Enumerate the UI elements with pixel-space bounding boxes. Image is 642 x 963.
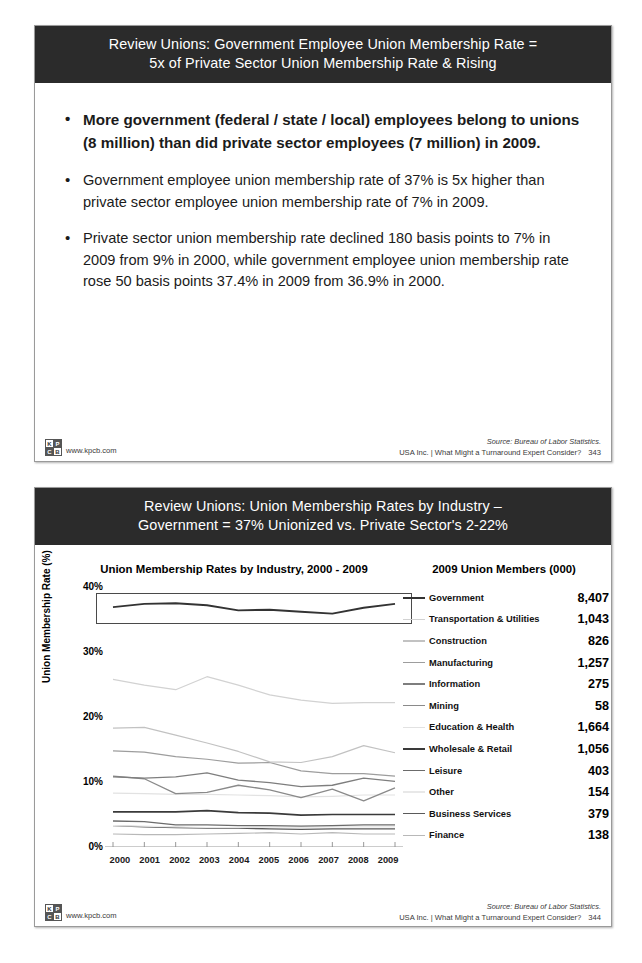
series-line: [113, 821, 395, 826]
kpcb-letter-p: P: [54, 905, 61, 912]
legend-label: Other: [429, 787, 557, 797]
legend-row: Leisure403: [403, 760, 609, 782]
deck-title: USA Inc. | What Might a Turnaround Exper…: [399, 448, 581, 457]
legend-label: Finance: [429, 830, 557, 840]
slide-2-title-line-2: Government = 37% Unionized vs. Private S…: [59, 516, 587, 535]
kpcb-logo-icon: K P C B: [45, 904, 62, 921]
deck-note: USA Inc. | What Might a Turnaround Exper…: [399, 448, 601, 457]
page-number: 344: [588, 913, 601, 922]
legend-label: Business Services: [429, 809, 557, 819]
legend-value: 1,043: [557, 612, 609, 626]
kpcb-letter-p: P: [54, 440, 61, 447]
kpcb-logo: K P C B www.kpcb.com: [45, 439, 117, 456]
slide-2-footer: K P C B www.kpcb.com Source: Bureau of L…: [35, 892, 611, 926]
series-line: [113, 833, 395, 835]
plot-region: [105, 587, 403, 847]
members-column-title: 2009 Union Members (000): [405, 563, 611, 575]
bullet-item: More government (federal / state / local…: [61, 109, 585, 154]
legend-row: Wholesale & Retail1,056: [403, 738, 609, 760]
kpcb-url[interactable]: www.kpcb.com: [66, 911, 117, 921]
legend-swatch-icon: [403, 662, 425, 663]
slide-1-header: Review Unions: Government Employee Union…: [35, 26, 611, 83]
legend-row: Finance138: [403, 825, 609, 847]
x-axis-tick: 2008: [343, 855, 373, 865]
legend-row: Construction826: [403, 630, 609, 652]
legend-swatch-icon: [403, 813, 425, 814]
legend-row: Mining58: [403, 695, 609, 717]
kpcb-letter-k: K: [46, 905, 53, 912]
slide-1-title-line-2: 5x of Private Sector Union Membership Ra…: [59, 54, 587, 73]
x-axis-tick: 2006: [284, 855, 314, 865]
legend-swatch-icon: [403, 835, 425, 836]
legend-value: 138: [557, 828, 609, 842]
deck-note: USA Inc. | What Might a Turnaround Exper…: [399, 913, 601, 922]
legend-value: 1,664: [557, 720, 609, 734]
x-axis-tick: 2007: [314, 855, 344, 865]
legend-value: 1,056: [557, 742, 609, 756]
series-line: [113, 811, 395, 816]
legend-label: Leisure: [429, 766, 557, 776]
legend-row: Business Services379: [403, 803, 609, 825]
kpcb-url[interactable]: www.kpcb.com: [66, 446, 117, 456]
legend-row: Education & Health1,664: [403, 717, 609, 739]
kpcb-letter-b: B: [54, 913, 61, 920]
slide-1: Review Unions: Government Employee Union…: [34, 25, 612, 462]
legend-swatch-icon: [403, 770, 425, 771]
x-axis-tick: 2009: [373, 855, 403, 865]
slide-2: Review Unions: Union Membership Rates by…: [34, 487, 612, 927]
chart-legend: Government8,407Transportation & Utilitie…: [403, 587, 609, 846]
legend-swatch-icon: [403, 748, 425, 750]
kpcb-letter-c: C: [46, 448, 53, 455]
deck-title: USA Inc. | What Might a Turnaround Exper…: [399, 913, 581, 922]
kpcb-logo: K P C B www.kpcb.com: [45, 904, 117, 921]
bullet-item: Government employee union membership rat…: [61, 170, 585, 213]
x-axis-line: [105, 842, 403, 847]
chart-area: Union Membership Rate (%) 0%10%20%30%40%…: [35, 587, 611, 887]
legend-label: Information: [429, 679, 557, 689]
legend-row: Manufacturing1,257: [403, 652, 609, 674]
series-line: [113, 603, 395, 613]
legend-row: Transportation & Utilities1,043: [403, 609, 609, 631]
legend-label: Education & Health: [429, 722, 557, 732]
slide-2-body: Union Membership Rates by Industry, 2000…: [35, 545, 611, 923]
legend-swatch-icon: [403, 727, 425, 728]
legend-swatch-icon: [403, 705, 425, 706]
x-axis-tick: 2004: [224, 855, 254, 865]
legend-swatch-icon: [403, 791, 425, 792]
legend-value: 403: [557, 764, 609, 778]
x-axis-tick: 2001: [135, 855, 165, 865]
legend-label: Construction: [429, 636, 557, 646]
series-line: [113, 776, 395, 801]
legend-label: Government: [429, 593, 557, 603]
page-number: 343: [588, 448, 601, 457]
slide-1-footer: K P C B www.kpcb.com Source: Bureau of L…: [35, 427, 611, 461]
slide-1-footer-right: Source: Bureau of Labor Statistics. USA …: [399, 437, 601, 457]
legend-value: 379: [557, 807, 609, 821]
legend-row: Information275: [403, 673, 609, 695]
kpcb-letter-b: B: [54, 448, 61, 455]
legend-value: 58: [557, 699, 609, 713]
legend-value: 8,407: [557, 591, 609, 605]
legend-label: Transportation & Utilities: [429, 614, 557, 624]
x-axis-tick: 2003: [194, 855, 224, 865]
slide-2-header: Review Unions: Union Membership Rates by…: [35, 488, 611, 545]
legend-label: Manufacturing: [429, 658, 557, 668]
series-line: [113, 751, 395, 776]
legend-value: 826: [557, 634, 609, 648]
x-axis-tick: 2000: [105, 855, 135, 865]
legend-value: 275: [557, 677, 609, 691]
slide-2-footer-right: Source: Bureau of Labor Statistics. USA …: [399, 902, 601, 922]
legend-value: 154: [557, 785, 609, 799]
legend-swatch-icon: [403, 597, 425, 599]
slide-1-body: More government (federal / state / local…: [35, 83, 611, 458]
legend-label: Mining: [429, 701, 557, 711]
slide-1-title-line-1: Review Unions: Government Employee Union…: [59, 35, 587, 54]
legend-value: 1,257: [557, 656, 609, 670]
chart-title: Union Membership Rates by Industry, 2000…: [35, 563, 405, 575]
legend-label: Wholesale & Retail: [429, 744, 557, 754]
y-axis-tick: 0%: [59, 841, 103, 852]
kpcb-letter-c: C: [46, 913, 53, 920]
line-chart-svg: [105, 587, 403, 847]
source-note: Source: Bureau of Labor Statistics.: [399, 437, 601, 446]
chart-titles: Union Membership Rates by Industry, 2000…: [35, 563, 611, 575]
